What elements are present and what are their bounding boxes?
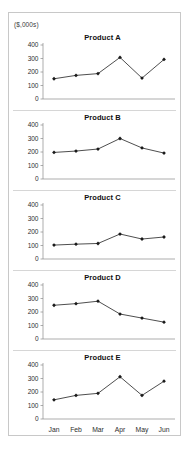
y-tick-label: 200 — [28, 308, 39, 315]
y-tick-label: 400 — [28, 361, 39, 368]
chart-panel-product-e: Product E0100200300400JanFebMarAprMayJun — [9, 351, 180, 451]
chart-panel-product-b: Product B0100200300400 — [9, 111, 180, 191]
y-tick-label: 400 — [28, 281, 39, 288]
data-point-marker — [96, 147, 100, 151]
y-tick-label: 300 — [28, 135, 39, 142]
x-tick-label: Jan — [49, 426, 60, 433]
y-tick-label: 0 — [35, 415, 39, 422]
plot-area: 0100200300400 — [9, 111, 180, 191]
x-tick-label: Mar — [92, 426, 104, 433]
y-tick-label: 300 — [28, 215, 39, 222]
data-point-marker — [74, 73, 78, 77]
data-point-marker — [96, 299, 100, 303]
data-point-marker — [118, 232, 122, 236]
data-point-marker — [74, 393, 78, 397]
y-tick-label: 400 — [28, 41, 39, 48]
y-tick-label: 0 — [35, 175, 39, 182]
plot-area: 0100200300400 — [9, 271, 180, 351]
data-point-marker — [162, 320, 166, 324]
y-tick-label: 0 — [35, 95, 39, 102]
series-line — [54, 57, 164, 78]
y-tick-label: 100 — [28, 322, 39, 329]
chart-panel-product-d: Product D0100200300400 — [9, 271, 180, 351]
plot-area: 0100200300400JanFebMarAprMayJun — [9, 351, 180, 451]
y-tick-label: 300 — [28, 55, 39, 62]
data-point-marker — [52, 77, 56, 81]
chart-panel-product-a: Product A0100200300400 — [9, 31, 180, 111]
data-point-marker — [118, 312, 122, 316]
y-tick-label: 200 — [28, 148, 39, 155]
y-tick-label: 0 — [35, 255, 39, 262]
data-point-marker — [52, 303, 56, 307]
y-tick-label: 100 — [28, 242, 39, 249]
series-line — [54, 139, 164, 154]
y-axis-units-label: ($,000s) — [14, 21, 39, 28]
data-point-marker — [52, 151, 56, 155]
x-tick-label: May — [136, 426, 149, 434]
small-multiples-chart-panel: ($,000s) Product A0100200300400Product B… — [8, 12, 181, 436]
data-point-marker — [162, 235, 166, 239]
data-point-marker — [140, 316, 144, 320]
y-tick-label: 300 — [28, 375, 39, 382]
y-tick-label: 0 — [35, 335, 39, 342]
y-tick-label: 100 — [28, 82, 39, 89]
plot-area: 0100200300400 — [9, 31, 180, 111]
series-line — [54, 301, 164, 322]
x-tick-label: Feb — [70, 426, 82, 433]
data-point-marker — [74, 242, 78, 246]
y-tick-label: 100 — [28, 162, 39, 169]
plot-area: 0100200300400 — [9, 191, 180, 271]
data-point-marker — [140, 237, 144, 241]
y-tick-label: 400 — [28, 201, 39, 208]
data-point-marker — [162, 151, 166, 155]
series-line — [54, 377, 164, 400]
data-point-marker — [140, 146, 144, 150]
y-tick-label: 100 — [28, 402, 39, 409]
data-point-marker — [52, 243, 56, 247]
y-tick-label: 200 — [28, 228, 39, 235]
x-tick-label: Apr — [115, 426, 126, 434]
data-point-marker — [74, 149, 78, 153]
data-point-marker — [52, 398, 56, 402]
y-tick-label: 200 — [28, 68, 39, 75]
y-tick-label: 400 — [28, 121, 39, 128]
y-tick-label: 200 — [28, 388, 39, 395]
data-point-marker — [118, 137, 122, 141]
y-tick-label: 300 — [28, 295, 39, 302]
x-tick-label: Jun — [159, 426, 170, 433]
series-line — [54, 234, 164, 245]
data-point-marker — [96, 242, 100, 246]
data-point-marker — [74, 302, 78, 306]
chart-panel-product-c: Product C0100200300400 — [9, 191, 180, 271]
